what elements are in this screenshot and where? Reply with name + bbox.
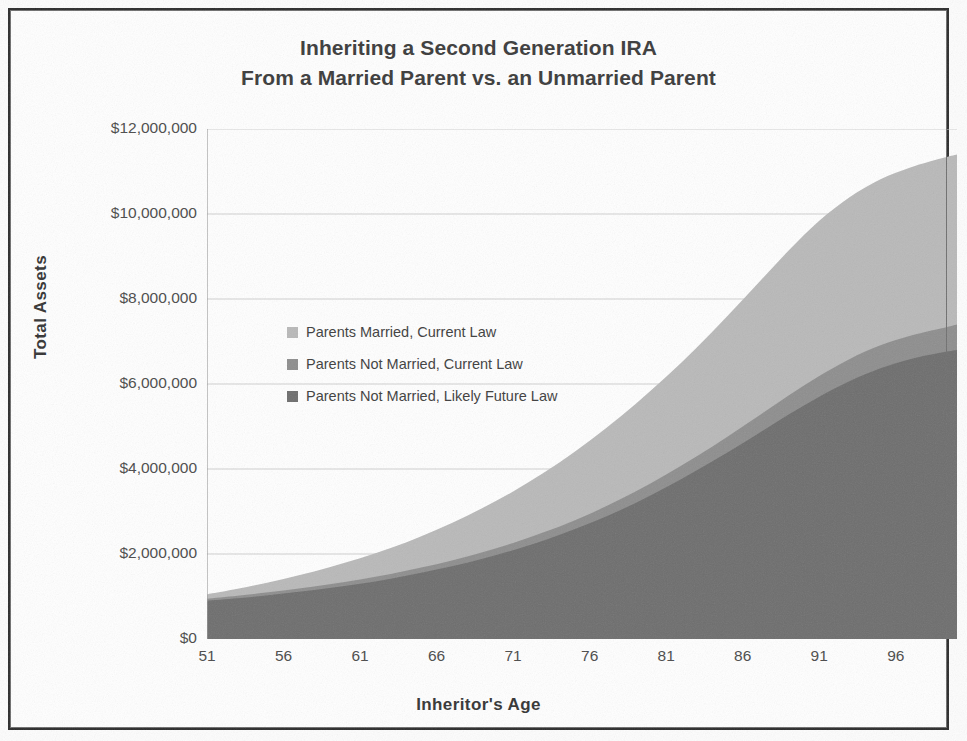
y-axis-tick-labels: $12,000,000$10,000,000$8,000,000$6,000,0… <box>49 129 197 639</box>
x-tick-label: 81 <box>646 647 686 665</box>
y-tick-label: $12,000,000 <box>57 119 197 137</box>
chart-page: Inheriting a Second Generation IRA From … <box>0 0 967 741</box>
chart-legend: Parents Married, Current LawParents Not … <box>287 316 617 412</box>
chart-title-line-2: From a Married Parent vs. an Unmarried P… <box>11 63 946 93</box>
y-tick-label: $2,000,000 <box>57 544 197 562</box>
y-tick-label: $0 <box>57 629 197 647</box>
legend-swatch-icon <box>287 359 298 370</box>
y-tick-label: $6,000,000 <box>57 374 197 392</box>
legend-item-label: Parents Not Married, Current Law <box>306 356 523 372</box>
x-axis-tick-labels: 51566166717681869196 <box>207 647 957 673</box>
x-tick-label: 76 <box>570 647 610 665</box>
legend-item-label: Parents Not Married, Likely Future Law <box>306 388 557 404</box>
x-tick-label: 86 <box>723 647 763 665</box>
x-axis-title: Inheritor's Age <box>11 695 946 715</box>
legend-swatch-icon <box>287 391 298 402</box>
chart-title-line-1: Inheriting a Second Generation IRA <box>300 36 657 59</box>
x-tick-label: 56 <box>264 647 304 665</box>
y-axis-title: Total Assets <box>31 207 51 407</box>
legend-swatch-icon <box>287 327 298 338</box>
x-tick-label: 91 <box>799 647 839 665</box>
legend-item[interactable]: Parents Not Married, Likely Future Law <box>287 380 617 412</box>
x-tick-label: 66 <box>417 647 457 665</box>
legend-item[interactable]: Parents Not Married, Current Law <box>287 348 617 380</box>
legend-item-label: Parents Married, Current Law <box>306 324 496 340</box>
y-tick-label: $4,000,000 <box>57 459 197 477</box>
x-tick-label: 51 <box>187 647 227 665</box>
y-tick-label: $8,000,000 <box>57 289 197 307</box>
chart-title: Inheriting a Second Generation IRA From … <box>11 33 946 93</box>
x-tick-label: 71 <box>493 647 533 665</box>
chart-frame-border: Inheriting a Second Generation IRA From … <box>8 8 949 730</box>
y-tick-label: $10,000,000 <box>57 204 197 222</box>
x-tick-label: 96 <box>876 647 916 665</box>
x-tick-label: 61 <box>340 647 380 665</box>
legend-item[interactable]: Parents Married, Current Law <box>287 316 617 348</box>
